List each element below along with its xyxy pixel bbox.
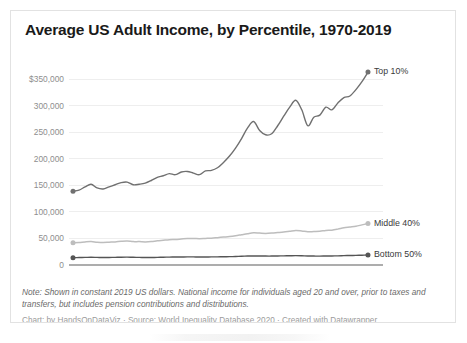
series-label-middle-40: Middle 40% bbox=[374, 218, 420, 228]
series-start-marker bbox=[71, 255, 76, 260]
y-axis-tick-labels: 050,000100,000150,000200,000250,000300,0… bbox=[29, 74, 64, 270]
series-start-marker bbox=[71, 240, 76, 245]
series-line-bottom-50[interactable] bbox=[73, 255, 368, 258]
y-tick-label: 150,000 bbox=[34, 180, 65, 190]
y-tick-label: 50,000 bbox=[38, 233, 64, 243]
chart-card: Average US Adult Income, by Percentile, … bbox=[10, 10, 456, 323]
series-end-marker bbox=[365, 70, 370, 75]
chart-note: Note: Shown in constant 2019 US dollars.… bbox=[22, 287, 446, 311]
series-line-top-10[interactable] bbox=[73, 72, 368, 191]
page-edge-artifact bbox=[150, 334, 330, 341]
series-label-top-10: Top 10% bbox=[374, 66, 408, 76]
series-end-marker bbox=[365, 253, 370, 258]
data-series-group[interactable] bbox=[71, 70, 371, 261]
y-tick-label: 0 bbox=[59, 260, 64, 270]
series-line-middle-40[interactable] bbox=[73, 224, 368, 243]
y-tick-label: 250,000 bbox=[34, 127, 65, 137]
y-tick-label: 300,000 bbox=[34, 101, 65, 111]
series-label-bottom-50: Bottom 50% bbox=[374, 249, 422, 259]
chart-credit: Chart: by HandsOnDataViz · Source: World… bbox=[22, 316, 446, 323]
y-tick-label: 100,000 bbox=[34, 207, 65, 217]
line-chart-svg: 050,000100,000150,000200,000250,000300,0… bbox=[11, 11, 456, 271]
chart-plot-area: 050,000100,000150,000200,000250,000300,0… bbox=[11, 11, 456, 271]
series-end-marker bbox=[365, 221, 370, 226]
y-tick-label: 200,000 bbox=[34, 154, 65, 164]
y-tick-label: $350,000 bbox=[29, 74, 64, 84]
series-labels-group: Top 10%Middle 40%Bottom 50% bbox=[374, 66, 422, 259]
series-start-marker bbox=[71, 189, 76, 194]
